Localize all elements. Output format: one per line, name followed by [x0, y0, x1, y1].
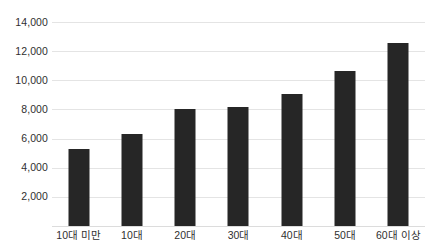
y-tick-label: 10,000	[0, 75, 48, 86]
bar-slot	[212, 22, 265, 226]
x-axis: 10대 미만10대20대30대40대50대60대 이상	[52, 228, 425, 248]
axis-baseline	[52, 226, 425, 227]
x-tick-label: 50대	[318, 228, 371, 242]
x-tick-label: 40대	[265, 228, 318, 242]
bar[interactable]	[68, 149, 89, 226]
bar-slot	[105, 22, 158, 226]
x-tick-label: 60대 이상	[372, 228, 425, 242]
plot-area	[52, 22, 425, 226]
y-tick-label: 14,000	[0, 17, 48, 28]
bar[interactable]	[175, 109, 196, 226]
x-tick-label: 10대 미만	[52, 228, 105, 242]
bar[interactable]	[121, 134, 142, 226]
y-tick-label: 12,000	[0, 46, 48, 57]
x-tick-label: 20대	[159, 228, 212, 242]
y-tick-label: 4,000	[0, 162, 48, 173]
y-tick-label: 2,000	[0, 191, 48, 202]
bar[interactable]	[281, 94, 302, 226]
bar[interactable]	[388, 43, 409, 226]
x-tick-label: 30대	[212, 228, 265, 242]
x-tick-label: 10대	[105, 228, 158, 242]
bars	[52, 22, 425, 226]
y-tick-label: 6,000	[0, 133, 48, 144]
bar[interactable]	[228, 107, 249, 226]
bar[interactable]	[335, 71, 356, 226]
bar-slot	[159, 22, 212, 226]
y-axis: 14,000 12,000 10,000 8,000 6,000 4,000 2…	[0, 0, 48, 250]
bar-slot	[372, 22, 425, 226]
bar-chart: 14,000 12,000 10,000 8,000 6,000 4,000 2…	[0, 0, 430, 250]
bar-slot	[265, 22, 318, 226]
bar-slot	[52, 22, 105, 226]
bar-slot	[318, 22, 371, 226]
y-tick-label: 8,000	[0, 104, 48, 115]
